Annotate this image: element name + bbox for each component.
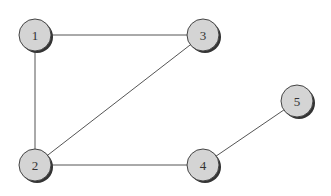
node-label: 2 bbox=[32, 158, 39, 173]
node-label: 1 bbox=[32, 28, 39, 43]
node-4: 4 bbox=[187, 149, 221, 183]
edge-4-5 bbox=[203, 101, 297, 165]
node-2: 2 bbox=[19, 149, 53, 183]
node-label: 3 bbox=[200, 28, 207, 43]
edges bbox=[35, 35, 297, 165]
node-label: 4 bbox=[200, 158, 207, 173]
node-label: 5 bbox=[294, 94, 301, 109]
node-1: 1 bbox=[19, 19, 53, 53]
node-3: 3 bbox=[187, 19, 221, 53]
edge-2-3 bbox=[35, 35, 203, 165]
node-5: 5 bbox=[281, 85, 315, 119]
graph-diagram: 1 2 3 4 5 bbox=[0, 0, 331, 196]
